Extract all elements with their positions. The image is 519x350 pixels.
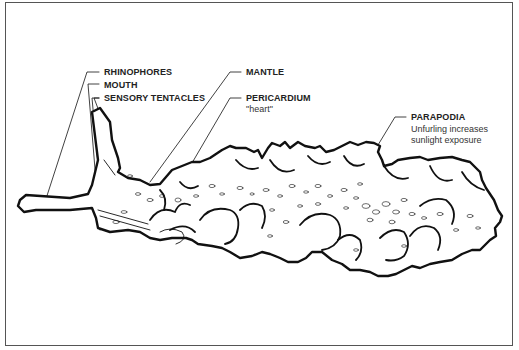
sea-slug-illustration (0, 0, 519, 350)
pericardium-note: "heart" (246, 104, 273, 115)
label-sensory-tentacles: SENSORY TENTACLES (104, 93, 205, 103)
label-rhinophores: RHINOPHORES (104, 67, 172, 77)
label-mantle: MANTLE (246, 67, 284, 77)
label-pericardium: PERICARDIUM (246, 93, 311, 103)
parapodia-note-line-1: Unfurling increases (411, 124, 488, 135)
parapodia-note-line-2: sunlight exposure (411, 135, 482, 146)
label-mouth: MOUTH (104, 80, 138, 90)
label-parapodia: PARAPODIA (411, 112, 465, 122)
